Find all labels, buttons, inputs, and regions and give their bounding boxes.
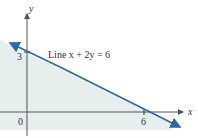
y-intercept-label: 3 <box>17 51 22 62</box>
y-axis-label: y <box>28 3 34 14</box>
inequality-graph: y x 0 3 6 Line x + 2y = 6 <box>0 0 198 138</box>
x-axis-label: x <box>187 106 193 117</box>
x-intercept-label: 6 <box>141 116 146 127</box>
origin-label: 0 <box>18 116 23 127</box>
line-equation-label: Line x + 2y = 6 <box>48 49 110 60</box>
